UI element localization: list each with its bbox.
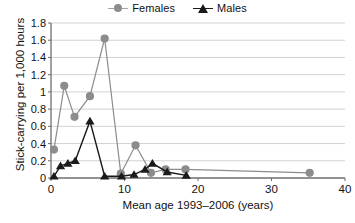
plot-area: 00.20.40.60.811.21.41.61.8 010203040: [0, 0, 355, 223]
data-point-marker: [101, 34, 109, 42]
x-tick-label: 20: [192, 183, 205, 195]
y-tick-label: 0.4: [31, 138, 46, 150]
y-tick-label: 0.2: [31, 155, 46, 167]
data-point-marker: [50, 145, 58, 153]
y-tick-label: 1.6: [31, 34, 46, 46]
series-line: [54, 39, 310, 174]
y-tick-label: 0.8: [31, 103, 46, 115]
y-tick-label: 0: [40, 172, 46, 184]
y-tick-label: 1: [40, 86, 46, 98]
data-point-marker: [148, 159, 157, 167]
data-point-marker: [70, 113, 78, 121]
y-tick-label: 1.2: [31, 69, 46, 81]
y-tick-label: 1.4: [31, 51, 46, 63]
x-axis-title: Mean age 1993–2006 (years): [51, 199, 345, 212]
y-tick-label: 0.6: [31, 120, 46, 132]
data-point-marker: [147, 169, 155, 177]
data-point-marker: [131, 141, 139, 149]
x-tick-labels: 010203040: [48, 178, 352, 195]
axis-lines: [51, 23, 345, 178]
x-tick-label: 30: [265, 183, 278, 195]
data-point-marker: [306, 169, 314, 177]
data-point-marker: [71, 156, 80, 164]
x-tick-label: 40: [339, 183, 352, 195]
data-point-marker: [86, 92, 94, 100]
x-tick-label: 10: [118, 183, 131, 195]
series-females: [50, 34, 314, 177]
x-tick-label: 0: [48, 183, 54, 195]
y-tick-labels: 00.20.40.60.811.21.41.61.8: [31, 17, 51, 184]
data-point-marker: [60, 82, 68, 90]
y-axis-title: Stick-carrying per 1,000 hours: [14, 10, 27, 180]
data-point-marker: [85, 117, 94, 125]
data-point-marker: [129, 170, 138, 178]
chart-figure: Females Males 00.20.40.60.811.21.41.61.8…: [0, 0, 355, 223]
y-tick-label: 1.8: [31, 17, 46, 29]
